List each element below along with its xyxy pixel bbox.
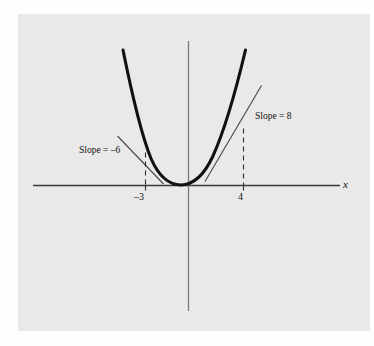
parabola-curve (123, 50, 246, 185)
x-axis-label: x (343, 179, 348, 190)
slope-annotation-left: Slope = –6 (79, 146, 120, 156)
x-tick-label-neg3: –3 (134, 192, 144, 202)
figure-root: x –3 4 Slope = –6 Slope = 8 (0, 0, 374, 346)
tangent-line-left (118, 136, 164, 184)
graph-canvas (0, 0, 374, 346)
x-tick-label-4: 4 (238, 192, 243, 202)
slope-annotation-right: Slope = 8 (255, 112, 292, 122)
